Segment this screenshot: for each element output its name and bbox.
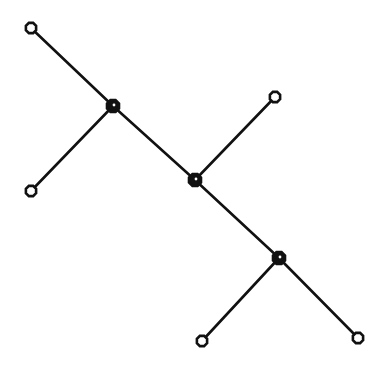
node-marker (353, 333, 363, 343)
node-highlight (279, 256, 282, 259)
node-F-internal (273, 252, 285, 264)
node-G-leaf (197, 336, 207, 346)
node-marker (26, 23, 36, 33)
node-highlight (113, 104, 116, 107)
node-marker (273, 252, 285, 264)
node-marker (26, 186, 36, 196)
node-marker (197, 336, 207, 346)
node-D-leaf (270, 92, 280, 102)
node-C-leaf (26, 186, 36, 196)
edge-B-C (31, 106, 113, 191)
edge-E-F (195, 180, 279, 258)
tree-diagram (0, 0, 387, 370)
node-A-leaf (26, 23, 36, 33)
edge-E-D (195, 97, 275, 180)
node-E-internal (189, 174, 201, 186)
node-marker (189, 174, 201, 186)
edge-F-H (279, 258, 358, 338)
edge-A-B (31, 28, 113, 106)
node-B-internal (107, 100, 119, 112)
node-marker (107, 100, 119, 112)
edge-B-E (113, 106, 195, 180)
node-highlight (195, 178, 198, 181)
edge-F-G (202, 258, 279, 341)
node-H-leaf (353, 333, 363, 343)
node-marker (270, 92, 280, 102)
